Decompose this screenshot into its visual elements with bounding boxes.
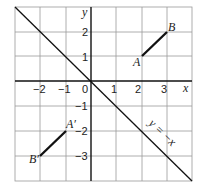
y-tick-label: −2 (75, 125, 88, 137)
point-label-B-prime: B′ (29, 152, 39, 166)
point-label-A: A (132, 55, 141, 69)
y-axis-label: y (81, 5, 88, 19)
point-label-A-prime: A′ (65, 117, 76, 131)
mirror-line-label: y = −x (145, 115, 180, 149)
y-tick-label: −3 (75, 150, 88, 162)
origin-label: 0 (82, 83, 88, 95)
x-tick-label: −1 (58, 83, 71, 95)
coordinate-grid-diagram: y x 0 −2 −1 1 2 3 2 1 −1 −2 −3 A B A′ B′… (0, 0, 200, 188)
y-tick-label: −1 (75, 100, 88, 112)
x-tick-label: 1 (111, 83, 117, 95)
x-tick-label: 2 (135, 83, 141, 95)
point-label-B: B (168, 20, 176, 34)
x-tick-label: −2 (33, 83, 46, 95)
x-axis-label: x (182, 81, 189, 95)
y-tick-label: 2 (82, 26, 88, 38)
x-tick-label: 3 (161, 83, 167, 95)
segment-AprimeBprime (40, 131, 66, 156)
segment-AB (142, 32, 167, 56)
y-tick-label: 1 (82, 51, 88, 63)
